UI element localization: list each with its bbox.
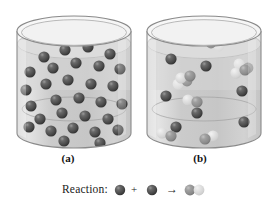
panel-labels: (a) (b) [0,152,269,172]
cylinder-a [17,16,131,149]
cylinder-a-left-highlight [17,40,26,138]
cylinder-b-rim-inner [152,20,257,46]
cylinder-a-contents [17,30,131,149]
cylinder-b-left-highlight [147,40,156,138]
reaction-figure: (a) (b) Reaction: + → [0,0,269,202]
legend-label: Reaction: [62,183,108,195]
legend-arrow-icon: → [166,182,178,197]
cylinder-a-right-highlight [118,40,126,138]
panel-label-b: (b) [180,152,220,164]
cylinder-b-contents [147,30,261,149]
cylinder-b-right-highlight [248,40,256,138]
cylinder-a-rim-inner [22,20,127,46]
panel-label-a: (a) [48,152,88,164]
cylinder-b [147,16,261,148]
legend-plus-sign: + [131,183,137,195]
legend-row: Reaction: + → [0,180,269,202]
